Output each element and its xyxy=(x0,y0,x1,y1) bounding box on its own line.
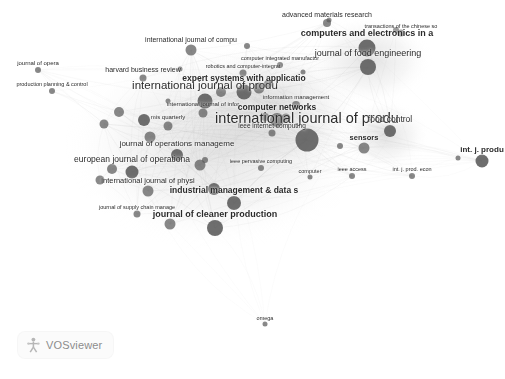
graph-node[interactable] xyxy=(199,109,208,118)
graph-node[interactable] xyxy=(337,143,343,149)
graph-node[interactable] xyxy=(269,130,276,137)
graph-node[interactable] xyxy=(165,219,176,230)
graph-node[interactable] xyxy=(35,67,41,73)
graph-node[interactable] xyxy=(244,43,250,49)
node-label[interactable]: expert systems with applicatio xyxy=(182,73,305,83)
graph-node[interactable] xyxy=(202,157,208,163)
graph-node[interactable] xyxy=(100,120,109,129)
graph-node[interactable] xyxy=(186,45,197,56)
node-label[interactable]: international journal of infor xyxy=(167,101,239,107)
node-label[interactable]: computer xyxy=(299,168,322,174)
node-label[interactable]: sensors xyxy=(350,133,379,142)
node-label[interactable]: international journal of physi xyxy=(101,176,194,185)
node-label[interactable]: computer networks xyxy=(238,102,316,112)
node-label[interactable]: int. j. produ xyxy=(460,144,504,153)
graph-node[interactable] xyxy=(456,156,461,161)
graph-node[interactable] xyxy=(143,186,154,197)
graph-node[interactable] xyxy=(263,322,268,327)
node-label[interactable]: information management xyxy=(263,94,329,100)
node-label[interactable]: journal of cleaner production xyxy=(153,209,278,219)
node-label[interactable]: food control xyxy=(368,114,412,124)
graph-node[interactable] xyxy=(327,18,332,23)
graph-node[interactable] xyxy=(349,173,355,179)
node-label[interactable]: ieee internet computing xyxy=(238,121,306,128)
node-label[interactable]: journal of supply chain manage xyxy=(99,204,175,210)
node-label[interactable]: computer integrated manufactur xyxy=(241,55,319,61)
vosviewer-mark-icon xyxy=(26,337,41,353)
network-visualization-canvas[interactable]: international journal of produinternatio… xyxy=(0,0,505,379)
graph-node[interactable] xyxy=(49,88,55,94)
graph-node[interactable] xyxy=(359,143,370,154)
graph-node[interactable] xyxy=(476,155,489,168)
graph-node[interactable] xyxy=(134,211,141,218)
node-label[interactable]: int. j. prod. econ xyxy=(392,166,431,172)
node-label[interactable]: mis quarterly xyxy=(151,114,185,120)
node-label[interactable]: ieee access xyxy=(337,166,366,172)
node-label[interactable]: journal of opera xyxy=(17,60,59,66)
graph-node[interactable] xyxy=(409,173,415,179)
node-label[interactable]: advanced materials research xyxy=(282,10,372,17)
vosviewer-logo-badge: VOSviewer xyxy=(18,332,113,358)
graph-node[interactable] xyxy=(164,122,173,131)
graph-node[interactable] xyxy=(114,107,124,117)
graph-node[interactable] xyxy=(308,175,313,180)
node-label[interactable]: journal of operations manageme xyxy=(120,139,235,148)
graph-node[interactable] xyxy=(384,125,396,137)
node-label[interactable]: harvard business review xyxy=(105,66,180,73)
graph-node[interactable] xyxy=(296,129,319,152)
graph-node[interactable] xyxy=(107,164,117,174)
node-label[interactable]: omega xyxy=(257,315,274,321)
node-label[interactable]: transactions of the chinese so xyxy=(365,23,438,29)
graph-node[interactable] xyxy=(138,114,150,126)
node-label[interactable]: robotics and computer-integrat xyxy=(206,63,281,69)
node-label[interactable]: ieee pervasive computing xyxy=(230,158,292,164)
node-label[interactable]: industrial management & data s xyxy=(170,185,298,195)
node-label[interactable]: journal of food engineering xyxy=(315,48,422,58)
node-label[interactable]: european journal of operationa xyxy=(74,154,190,164)
graph-node[interactable] xyxy=(360,59,376,75)
node-label[interactable]: international journal of compu xyxy=(145,36,237,43)
node-label[interactable]: computers and electronics in a xyxy=(301,28,434,38)
vosviewer-logo-label: VOSviewer xyxy=(46,339,102,351)
node-label[interactable]: production planning & control xyxy=(16,81,87,87)
graph-node[interactable] xyxy=(258,165,264,171)
graph-node[interactable] xyxy=(207,220,223,236)
